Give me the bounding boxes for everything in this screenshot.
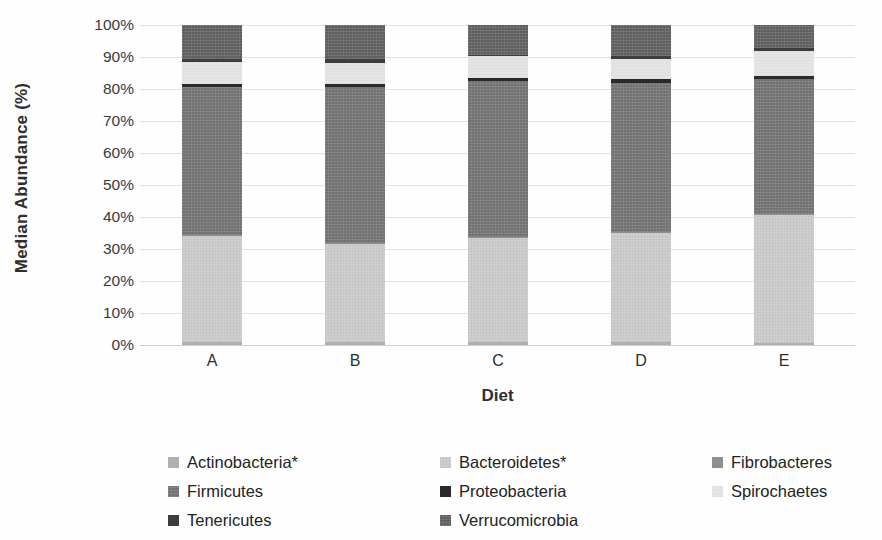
bar-segment-bacteroidetes <box>182 236 242 343</box>
stacked-bar <box>754 25 814 345</box>
bar-column-a[interactable] <box>182 25 242 345</box>
legend-swatch-icon <box>168 457 179 468</box>
y-axis-tick-label: 30% <box>74 240 134 258</box>
x-axis-title: Diet <box>140 386 855 406</box>
chart-figure: Median Abundance (%) 100%90%80%70%60%50%… <box>0 0 882 540</box>
bar-column-d[interactable] <box>611 25 671 345</box>
bar-segment-bacteroidetes <box>325 244 385 343</box>
x-axis-tick-label: C <box>468 352 528 370</box>
bar-segment-bacteroidetes <box>468 238 528 342</box>
legend-label: Fibrobacteres <box>731 453 832 472</box>
legend-item-fibrobacteres[interactable]: Fibrobacteres <box>712 453 882 472</box>
x-axis-tick-label: A <box>182 352 242 370</box>
legend-item-actinobacteria[interactable]: Actinobacteria* <box>168 453 440 472</box>
y-axis-tick-label: 10% <box>74 304 134 322</box>
bar-segment-actinobacteria <box>754 343 814 345</box>
x-axis-tick-label: B <box>325 352 385 370</box>
bar-segment-spirochaetes <box>468 56 528 78</box>
plot-area <box>140 25 855 345</box>
bar-segment-spirochaetes <box>611 59 671 79</box>
bar-segment-firmicutes <box>182 87 242 234</box>
legend-item-spirochaetes[interactable]: Spirochaetes <box>712 482 882 501</box>
bar-segment-verrucomicrobia <box>325 25 385 59</box>
y-axis-tick-label: 20% <box>74 272 134 290</box>
legend-label: Firmicutes <box>187 482 263 501</box>
y-axis-tick-label: 50% <box>74 176 134 194</box>
x-axis-tick-label: E <box>754 352 814 370</box>
chart-legend: Actinobacteria*Bacteroidetes*Fibrobacter… <box>168 448 848 535</box>
bar-segment-verrucomicrobia <box>754 25 814 48</box>
stacked-bar <box>325 25 385 345</box>
legend-swatch-icon <box>712 486 723 497</box>
y-axis-ticks: 100%90%80%70%60%50%40%30%20%10%0% <box>62 25 134 345</box>
x-axis-tick-label: D <box>611 352 671 370</box>
y-axis-tick-label: 80% <box>74 80 134 98</box>
legend-item-firmicutes[interactable]: Firmicutes <box>168 482 440 501</box>
legend-label: Verrucomicrobia <box>459 511 578 530</box>
legend-label: Actinobacteria* <box>187 453 298 472</box>
legend-item-verrucomicrobia[interactable]: Verrucomicrobia <box>440 511 712 530</box>
legend-swatch-icon <box>440 515 451 526</box>
y-axis-tick-label: 0% <box>74 336 134 354</box>
legend-swatch-icon <box>440 486 451 497</box>
y-axis-tick-label: 60% <box>74 144 134 162</box>
bar-segment-actinobacteria <box>611 342 671 345</box>
legend-item-bacteroidetes[interactable]: Bacteroidetes* <box>440 453 712 472</box>
bar-segment-firmicutes <box>754 79 814 214</box>
legend-swatch-icon <box>168 515 179 526</box>
bar-column-c[interactable] <box>468 25 528 345</box>
legend-label: Proteobacteria <box>459 482 566 501</box>
legend-swatch-icon <box>168 486 179 497</box>
legend-item-proteobacteria[interactable]: Proteobacteria <box>440 482 712 501</box>
y-axis-title-text: Median Abundance (%) <box>12 82 32 272</box>
bar-segment-verrucomicrobia <box>182 25 242 59</box>
stacked-bar <box>468 25 528 345</box>
y-axis-tick-label: 70% <box>74 112 134 130</box>
legend-label: Spirochaetes <box>731 482 827 501</box>
bar-segment-verrucomicrobia <box>611 25 671 56</box>
y-axis-title: Median Abundance (%) <box>2 0 42 355</box>
y-axis-tick-label: 40% <box>74 208 134 226</box>
legend-label: Tenericutes <box>187 511 271 530</box>
bar-segment-firmicutes <box>468 81 528 237</box>
bar-segment-spirochaetes <box>182 62 242 84</box>
legend-swatch-icon <box>440 457 451 468</box>
bar-segment-verrucomicrobia <box>468 25 528 55</box>
bar-segment-actinobacteria <box>468 342 528 345</box>
bar-segment-spirochaetes <box>325 63 385 85</box>
bar-column-e[interactable] <box>754 25 814 345</box>
bar-segment-bacteroidetes <box>754 215 814 342</box>
legend-label: Bacteroidetes* <box>459 453 566 472</box>
x-axis-ticks: ABCDE <box>140 352 855 378</box>
bar-segment-actinobacteria <box>182 342 242 345</box>
bar-segment-actinobacteria <box>325 342 385 345</box>
bar-segment-spirochaetes <box>754 51 814 76</box>
y-axis-tick-label: 90% <box>74 48 134 66</box>
stacked-bar <box>182 25 242 345</box>
y-axis-tick-label: 100% <box>74 16 134 34</box>
gridline <box>140 345 855 346</box>
bar-segment-firmicutes <box>611 83 671 232</box>
stacked-bar <box>611 25 671 345</box>
legend-item-tenericutes[interactable]: Tenericutes <box>168 511 440 530</box>
bar-segment-firmicutes <box>325 87 385 242</box>
bar-column-b[interactable] <box>325 25 385 345</box>
legend-swatch-icon <box>712 457 723 468</box>
bar-segment-bacteroidetes <box>611 233 671 343</box>
